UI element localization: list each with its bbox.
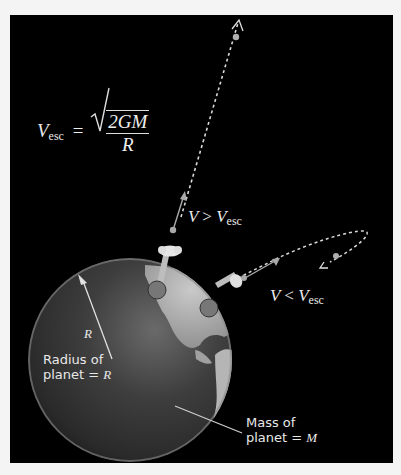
escape-condition-label: V > Vesc	[188, 209, 242, 229]
formula-equals: =	[73, 120, 84, 141]
escape-launch-site	[148, 281, 166, 299]
orbit-launch-site	[200, 299, 218, 317]
escape-trajectory	[148, 20, 243, 299]
orbit-arrowhead	[320, 262, 328, 268]
orbit-condition-label: V < Vesc	[270, 288, 324, 308]
escape-spacecraft	[233, 34, 239, 40]
orbit-velocity-arrow	[245, 261, 275, 278]
diagram-graphics	[10, 15, 393, 463]
radius-symbol: R	[84, 326, 92, 341]
escape-velocity-formula: Vesc = 2GM R	[37, 110, 149, 156]
formula-sqrt: 2GM R	[92, 110, 149, 156]
orbit-v-symbol: V	[270, 286, 280, 305]
mass-label-line1: Mass of	[246, 415, 317, 430]
formula-lhs-symbol: V	[37, 120, 49, 141]
radius-label: Radius of planet = R	[43, 352, 111, 382]
formula-fraction: 2GM R	[106, 110, 149, 156]
escape-v-symbol: V	[188, 207, 198, 226]
escape-relation: >	[202, 207, 212, 226]
radius-label-line1: Radius of	[43, 352, 111, 367]
sqrt-sign-icon	[90, 87, 110, 133]
orbit-vesc-subscript: esc	[309, 293, 324, 307]
orbit-spacecraft	[333, 253, 339, 259]
mass-label: Mass of planet = M	[246, 415, 317, 445]
radius-label-line2: planet = R	[43, 367, 111, 382]
formula-denominator: R	[106, 134, 149, 156]
escape-vesc-symbol: V	[216, 207, 226, 226]
orbit-relation: <	[284, 286, 294, 305]
formula-numerator: 2GM	[106, 111, 149, 134]
orbit-vesc-symbol: V	[298, 286, 308, 305]
mass-label-line2: planet = M	[246, 430, 317, 445]
escape-vesc-subscript: esc	[227, 214, 242, 228]
formula-lhs-subscript: esc	[49, 129, 64, 143]
escape-velocity-diagram: Vesc = 2GM R V > Vesc V < Vesc R Radius …	[10, 15, 393, 463]
